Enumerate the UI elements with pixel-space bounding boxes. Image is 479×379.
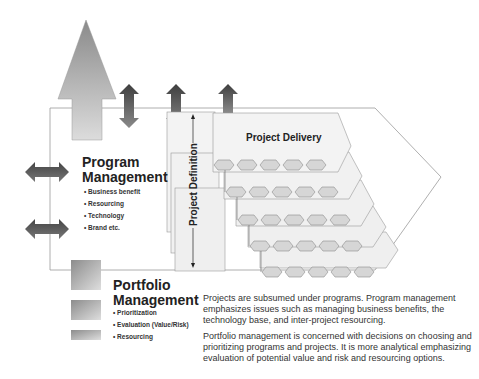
bullet-item: Evaluation (Value/Risk) xyxy=(113,319,189,331)
bullet-item: Business benefit xyxy=(84,186,140,198)
program-description: Projects are subsumed under programs. Pr… xyxy=(203,293,475,326)
portfolio-boxes xyxy=(71,260,101,340)
portfolio-bullets: Prioritization Evaluation (Value/Risk) R… xyxy=(113,307,189,343)
portfolio-management-title: Portfolio Management xyxy=(113,278,199,308)
task-row xyxy=(250,241,362,251)
project-delivery-label: Project Delivery xyxy=(246,132,322,143)
bullet-item: Resourcing xyxy=(113,331,189,343)
bullet-item: Brand etc. xyxy=(84,222,140,234)
bullet-item: Resourcing xyxy=(84,198,140,210)
portfolio-title-line1: Portfolio xyxy=(113,278,199,293)
task-row xyxy=(214,160,326,170)
program-title-line1: Program xyxy=(82,155,168,170)
portfolio-description: Portfolio management is concerned with d… xyxy=(203,331,475,364)
program-management-title: Program Management xyxy=(82,155,168,185)
bullet-item: Prioritization xyxy=(113,307,189,319)
program-bullets: Business benefit Resourcing Technology B… xyxy=(84,186,140,234)
bullet-item: Technology xyxy=(84,210,140,222)
portfolio-title-line2: Management xyxy=(113,293,199,308)
task-row xyxy=(226,187,338,197)
task-row xyxy=(238,215,350,225)
program-title-line2: Management xyxy=(82,170,168,185)
task-row xyxy=(262,267,374,277)
project-definition-label: Project Definition xyxy=(188,143,199,226)
